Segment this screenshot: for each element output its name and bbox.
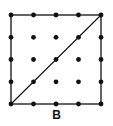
grid-dot [9,102,14,107]
grid-dot [76,79,81,84]
grid-dot [99,102,104,107]
grid-dot [9,13,14,18]
grid-dot [31,13,36,18]
grid-dot [9,57,14,62]
grid-dot [31,102,36,107]
grid-dot [31,57,36,62]
grid-dot [76,57,81,62]
grid-dot [54,102,59,107]
grid-dot [76,13,81,18]
grid-dot [54,79,59,84]
grid-dot [54,35,59,40]
grid-dot [99,79,104,84]
grid-dot [9,35,14,40]
grid-dot [99,35,104,40]
grid-dot [76,102,81,107]
grid-dot [9,79,14,84]
grid-dot [31,79,36,84]
grid-dot [31,35,36,40]
grid-dot [54,57,59,62]
grid-dot [99,13,104,18]
grid-dot [99,57,104,62]
figure-label: B [0,108,113,122]
grid-dot [76,35,81,40]
grid-dot [54,13,59,18]
